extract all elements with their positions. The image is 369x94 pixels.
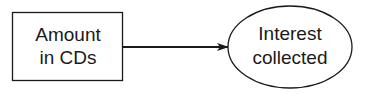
node-amount-in-cds: Amount in CDs: [13, 13, 123, 81]
node-label-line1: Amount: [35, 24, 101, 45]
node-label-line2: collected: [253, 47, 328, 68]
diagram-canvas: Amount in CDs Interest collected: [0, 0, 369, 94]
node-label-line1: Interest: [258, 23, 322, 44]
node-label-line2: in CDs: [39, 47, 96, 68]
node-interest-collected: Interest collected: [228, 6, 352, 88]
